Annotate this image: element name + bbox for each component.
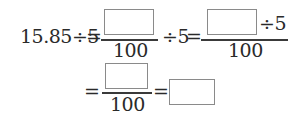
denominator: 100 — [110, 94, 145, 114]
denominator: 100 — [113, 40, 148, 60]
divide-by-five: ÷5 — [162, 26, 189, 46]
equals-sign: = — [153, 81, 168, 101]
answer-box-3[interactable] — [105, 63, 148, 89]
answer-box-1[interactable] — [104, 9, 154, 35]
equals-sign: = — [186, 26, 201, 46]
answer-box-2[interactable] — [207, 9, 257, 35]
equals-sign: = — [86, 26, 101, 46]
numerator-divide-by-five: ÷5 — [259, 13, 286, 33]
denominator: 100 — [228, 40, 263, 60]
equals-sign: = — [84, 81, 99, 101]
answer-box-4[interactable] — [169, 79, 215, 105]
